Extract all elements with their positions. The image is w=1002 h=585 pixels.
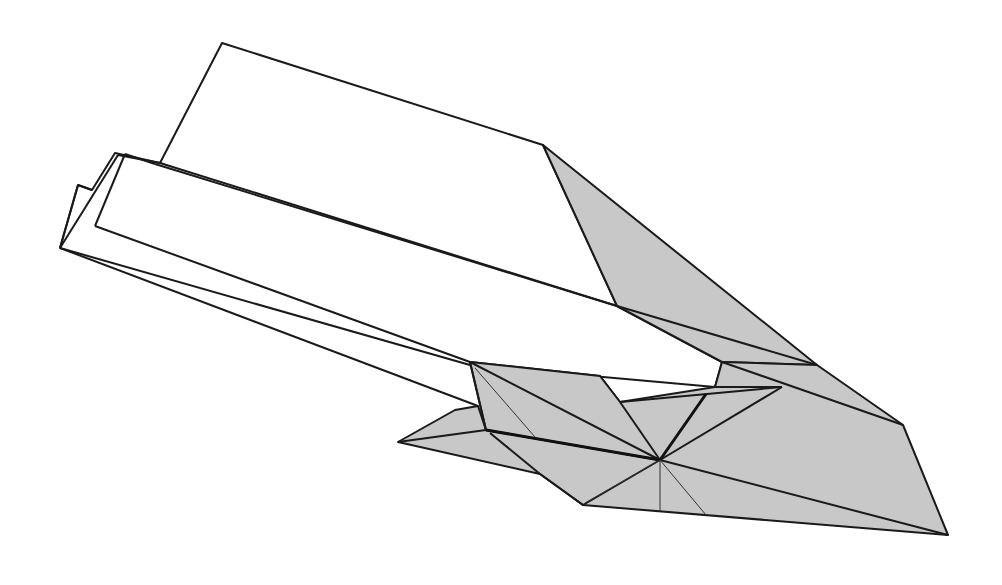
paper-airplane-diagram [0,0,1002,585]
